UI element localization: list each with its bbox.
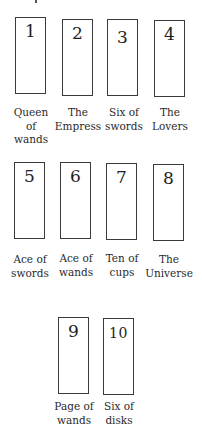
cropped-text-fragment [35, 0, 37, 3]
card-10: 10 [103, 318, 134, 395]
card-number: 10 [104, 325, 133, 342]
card-label-10: Six of disks [91, 400, 147, 427]
card-2: 2 [62, 19, 93, 96]
card-number: 8 [154, 170, 183, 187]
label-line: disks [91, 414, 147, 428]
card-number: 2 [63, 25, 92, 42]
label-line: Universe [141, 267, 197, 281]
card-label-4: The Lovers [142, 106, 198, 133]
label-line: Lovers [142, 120, 198, 134]
card-number: 7 [107, 169, 136, 186]
card-1: 1 [15, 17, 46, 94]
card-number: 5 [15, 168, 44, 185]
label-line: The [141, 253, 197, 267]
card-number: 6 [61, 168, 90, 185]
card-number: 3 [108, 29, 137, 46]
card-7: 7 [106, 163, 137, 240]
card-5: 5 [14, 162, 45, 239]
card-6: 6 [60, 162, 91, 239]
card-label-8: The Universe [141, 253, 197, 280]
card-number: 9 [59, 323, 88, 340]
label-line: Six of [91, 400, 147, 414]
card-3: 3 [107, 19, 138, 96]
card-9: 9 [58, 317, 89, 394]
card-4: 4 [154, 20, 185, 97]
card-8: 8 [153, 164, 184, 241]
label-line: The [142, 106, 198, 120]
label-line: wands [3, 133, 59, 147]
card-number: 4 [155, 26, 184, 43]
card-number: 1 [16, 23, 45, 40]
